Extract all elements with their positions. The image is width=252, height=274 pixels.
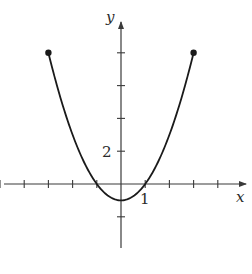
endpoint-dot	[45, 50, 51, 56]
x-axis-label: x	[236, 188, 245, 206]
function-graph: y x 1 2	[0, 0, 252, 274]
y-axis-label: y	[105, 8, 115, 26]
x-tick-label-1: 1	[140, 190, 150, 208]
y-tick-label-2: 2	[102, 143, 112, 161]
endpoint-dot	[190, 50, 196, 56]
